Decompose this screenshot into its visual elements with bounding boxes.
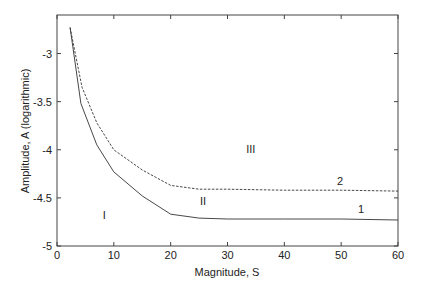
chart: 12IIIIII 0102030405060-5-4.5-4-3.5-3 Mag…: [0, 0, 427, 282]
plot-area: [57, 15, 398, 246]
y-tick-label: -4: [42, 144, 52, 156]
x-tick-label: 10: [108, 249, 120, 261]
y-axis-label: Amplitude, A (logarithmic): [19, 69, 31, 194]
series-layer: [70, 28, 398, 221]
x-axis-label: Magnitude, S: [195, 266, 260, 278]
x-tick-label: 0: [54, 249, 60, 261]
annotation-label: II: [200, 195, 206, 207]
x-tick-label: 40: [278, 249, 290, 261]
series-line-2: [70, 28, 398, 192]
y-tick-label: -5: [42, 240, 52, 252]
y-tick-label: -4.5: [33, 192, 52, 204]
series-line-1: [70, 28, 398, 221]
annotation-label: 2: [337, 175, 343, 187]
axes-frame: [57, 15, 398, 246]
annotation-layer: 12IIIIII: [103, 143, 364, 221]
y-tick-label: -3: [42, 48, 52, 60]
annotation-label: III: [246, 143, 255, 155]
annotation-label: I: [103, 209, 106, 221]
x-tick-label: 20: [165, 249, 177, 261]
x-tick-label: 60: [392, 249, 404, 261]
x-tick-label: 30: [221, 249, 233, 261]
y-tick-label: -3.5: [33, 96, 52, 108]
annotation-label: 1: [358, 203, 364, 215]
x-tick-label: 50: [335, 249, 347, 261]
axis-ticks: 0102030405060-5-4.5-4-3.5-3: [33, 15, 404, 261]
